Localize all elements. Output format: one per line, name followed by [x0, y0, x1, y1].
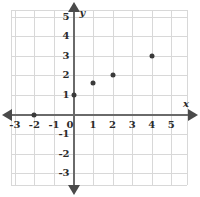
y-tick-label: -3	[50, 168, 74, 178]
coordinate-plane-graph: -3-2-101234554321-1-2-3 x y	[0, 0, 200, 197]
gridline-horizontal	[11, 75, 187, 76]
gridline-horizontal	[11, 36, 187, 37]
gridline-horizontal	[11, 154, 187, 155]
y-tick-label: -1	[50, 129, 74, 139]
y-tick-label: 3	[50, 51, 74, 61]
grid-area	[11, 10, 187, 185]
x-axis-arrow-right	[188, 109, 198, 121]
y-tick-label: 1	[50, 90, 74, 100]
x-axis	[10, 114, 190, 116]
x-tick-label: 3	[122, 120, 142, 130]
data-point	[91, 81, 96, 86]
y-tick-label: 4	[50, 31, 74, 41]
data-point	[32, 112, 37, 117]
y-tick-label: 2	[50, 70, 74, 80]
gridline-horizontal	[11, 56, 187, 57]
x-tick-label: -3	[5, 120, 25, 130]
gridline-horizontal	[11, 10, 187, 11]
x-tick-label: 5	[161, 120, 181, 130]
gridline-horizontal	[11, 173, 187, 174]
data-point	[149, 53, 154, 58]
y-tick-label: 5	[50, 12, 74, 22]
x-tick-label: 1	[83, 120, 103, 130]
x-tick-label: 2	[103, 120, 123, 130]
gridline-horizontal	[11, 185, 187, 186]
x-axis-label: x	[183, 99, 189, 109]
gridline-horizontal	[11, 95, 187, 96]
x-tick-label: -2	[24, 120, 44, 130]
data-point	[110, 73, 115, 78]
gridline-horizontal	[11, 134, 187, 135]
data-point	[71, 92, 76, 97]
y-axis-arrow-down	[68, 185, 80, 195]
y-axis-label: y	[80, 8, 86, 18]
y-tick-label: -2	[50, 149, 74, 159]
gridline-horizontal	[11, 17, 187, 18]
x-tick-label: 4	[142, 120, 162, 130]
